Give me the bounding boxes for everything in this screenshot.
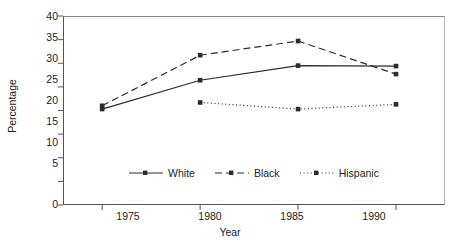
data-point-marker bbox=[198, 53, 203, 58]
data-point-marker bbox=[296, 107, 301, 112]
data-point-marker bbox=[198, 78, 203, 83]
legend-item-white[interactable]: White bbox=[129, 167, 195, 179]
legend-label: Black bbox=[254, 167, 280, 179]
legend-item-hispanic[interactable]: Hispanic bbox=[300, 167, 379, 179]
series-line bbox=[102, 66, 396, 109]
series-hispanic bbox=[198, 100, 398, 111]
data-point-marker bbox=[296, 63, 301, 68]
series-white bbox=[100, 63, 398, 111]
data-point-marker bbox=[394, 72, 399, 77]
legend: White Black Hispanic bbox=[63, 167, 445, 179]
plot-canvas bbox=[0, 0, 460, 245]
data-point-marker bbox=[198, 100, 203, 105]
legend-swatch-dotted-icon bbox=[300, 168, 334, 178]
series-layer bbox=[100, 39, 398, 112]
legend-swatch-solid-icon bbox=[129, 168, 163, 178]
legend-label: Hispanic bbox=[339, 167, 379, 179]
legend-swatch-dashed-icon bbox=[215, 168, 249, 178]
data-point-marker bbox=[394, 64, 399, 69]
data-point-marker bbox=[100, 103, 105, 108]
data-point-marker bbox=[296, 39, 301, 44]
legend-item-black[interactable]: Black bbox=[215, 167, 280, 179]
line-chart: · · ·· · · ·· 40 35 30 25 20 15 10 5 0 1… bbox=[0, 0, 460, 245]
data-point-marker bbox=[394, 102, 399, 107]
axis-ticks bbox=[58, 16, 396, 210]
legend-label: White bbox=[168, 167, 195, 179]
